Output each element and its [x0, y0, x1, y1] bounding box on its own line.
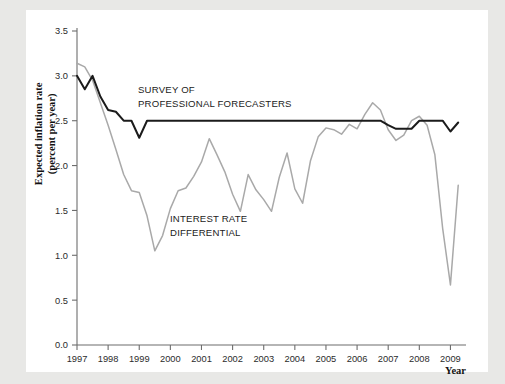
y-tick-label: 2.0 [55, 161, 68, 171]
x-tick-label: 2009 [440, 354, 461, 364]
annotation-survey-line1: SURVEY OF [138, 84, 195, 95]
x-tick-label: 2002 [222, 354, 243, 364]
y-axis-ticks: 0.00.51.01.52.02.53.03.5 [55, 26, 77, 350]
y-tick-label: 3.5 [55, 26, 68, 36]
y-tick-label: 2.5 [55, 116, 68, 126]
x-tick-label: 2007 [378, 354, 399, 364]
x-tick-label: 2001 [191, 354, 212, 364]
x-tick-label: 1997 [67, 354, 88, 364]
x-tick-label: 2000 [160, 354, 181, 364]
y-tick-label: 0.0 [55, 340, 68, 350]
x-tick-label: 2006 [347, 354, 368, 364]
x-tick-label: 1998 [98, 354, 119, 364]
y-tick-label: 3.0 [55, 71, 68, 81]
annotation-differential-line2: DIFFERENTIAL [170, 227, 241, 238]
x-axis-ticks: 1997199819992000200120022003200420052006… [67, 345, 461, 364]
y-tick-label: 0.5 [55, 296, 68, 306]
x-tick-label: 2008 [409, 354, 430, 364]
y-tick-label: 1.0 [55, 251, 68, 261]
x-tick-label: 2005 [316, 354, 337, 364]
x-tick-label: 2003 [253, 354, 274, 364]
annotation-survey-line2: PROFESSIONAL FORECASTERS [138, 98, 292, 109]
y-tick-label: 1.5 [55, 206, 68, 216]
x-tick-label: 2004 [284, 354, 305, 364]
chart-plot: 0.00.51.01.52.02.53.03.5 199719981999200… [0, 0, 505, 384]
series-interest-rate-differential [77, 63, 458, 285]
x-axis-title: Year [445, 365, 466, 376]
annotation-differential-line1: INTEREST RATE [170, 213, 247, 224]
x-tick-label: 1999 [129, 354, 150, 364]
